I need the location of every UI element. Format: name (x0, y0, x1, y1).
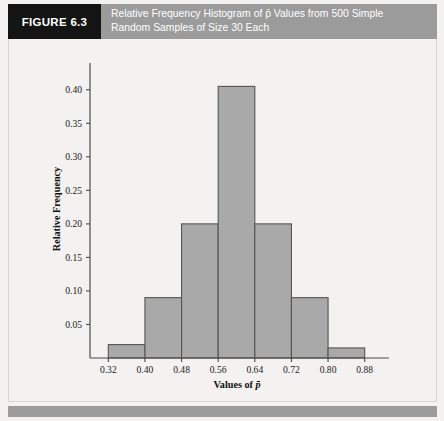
figure-caption-line-1: Relative Frequency Histogram of p̄ Value… (111, 7, 433, 21)
figure-number-box: FIGURE 6.3 (8, 4, 101, 39)
figure-footer-band (8, 406, 437, 417)
figure-plot-panel (8, 39, 437, 402)
figure-container: FIGURE 6.3 Relative Frequency Histogram … (0, 0, 444, 421)
figure-header-band: FIGURE 6.3 Relative Frequency Histogram … (8, 4, 437, 39)
figure-caption: Relative Frequency Histogram of p̄ Value… (111, 7, 433, 36)
figure-caption-line-2: Random Samples of Size 30 Each (111, 21, 433, 35)
figure-number-label: FIGURE 6.3 (8, 4, 101, 39)
